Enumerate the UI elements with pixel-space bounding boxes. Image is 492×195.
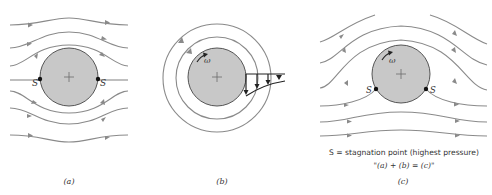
- stagnation-point: [424, 87, 428, 91]
- stagnation-point: [374, 87, 378, 91]
- flow-arrow-icon: [344, 104, 349, 108]
- flow-arrow-icon: [454, 102, 459, 107]
- flow-arrow-icon: [452, 78, 457, 84]
- panel-b: ω (b): [163, 24, 285, 186]
- panel-c: ω S S S = stagnation point (highest pres…: [320, 15, 487, 186]
- panel-label: (a): [63, 177, 74, 186]
- streamline: [320, 130, 487, 136]
- velocity-profile-curve: [246, 81, 285, 96]
- flow-arrow-icon: [101, 36, 107, 40]
- stagnation-label: S: [366, 85, 372, 95]
- flow-arrow-icon: [186, 48, 192, 54]
- flow-arrow-icon: [27, 114, 32, 118]
- flow-arrow-icon: [101, 117, 106, 122]
- flow-arrow-icon: [344, 80, 348, 86]
- flow-arrow-icon: [28, 133, 33, 138]
- flow-arrow-icon: [451, 47, 456, 53]
- streamline: [430, 15, 487, 44]
- caption-legend: S = stagnation point (highest pressure): [329, 148, 479, 157]
- flow-arrow-icon: [339, 34, 344, 39]
- panel-a: S S (a): [10, 18, 128, 186]
- streamline: [320, 112, 487, 122]
- stagnation-point: [38, 77, 42, 81]
- panel-label: (c): [398, 177, 409, 186]
- stagnation-label: S: [430, 85, 436, 95]
- panel-label: (b): [216, 177, 227, 186]
- caption-equation: "(a) + (b) = (c)": [374, 161, 435, 170]
- flow-arrow-icon: [452, 30, 457, 36]
- flow-diagram: S S (a) ω (b): [0, 0, 492, 195]
- omega-label: ω: [389, 56, 396, 65]
- stagnation-label: S: [100, 78, 106, 88]
- streamline: [10, 135, 128, 142]
- flow-arrow-icon: [347, 120, 352, 124]
- omega-label: ω: [204, 56, 211, 65]
- streamline: [10, 18, 128, 25]
- streamline: [320, 15, 375, 42]
- stagnation-label: S: [32, 78, 38, 88]
- velocity-arrow-icon: [276, 75, 282, 80]
